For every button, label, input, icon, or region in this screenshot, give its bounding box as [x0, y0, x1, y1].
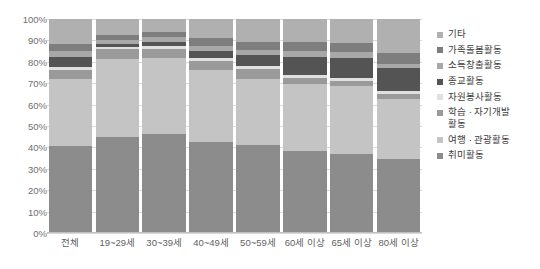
- bar-segment[interactable]: [49, 70, 93, 79]
- bar-segment[interactable]: [236, 145, 280, 233]
- x-axis-label: 80세 이상: [377, 236, 421, 256]
- legend-item[interactable]: 종교활동: [437, 75, 540, 87]
- bar-segment[interactable]: [96, 19, 140, 35]
- bar-column[interactable]: [189, 19, 233, 233]
- x-axis-line: [47, 232, 422, 233]
- legend-label: 가족돌봄활동: [448, 44, 502, 56]
- bar-segment[interactable]: [377, 99, 421, 159]
- x-axis-label: 30~39세: [142, 236, 186, 256]
- bar-segment[interactable]: [142, 134, 186, 234]
- bar-segment[interactable]: [142, 19, 186, 32]
- bar-segment[interactable]: [189, 61, 233, 71]
- bar-column[interactable]: [283, 19, 327, 233]
- x-axis-label: 19~29세: [96, 236, 140, 256]
- legend-swatch-icon: [437, 110, 443, 116]
- bar-segment[interactable]: [377, 19, 421, 53]
- legend-item[interactable]: 여행 · 관광활동: [437, 134, 540, 146]
- bar-segment[interactable]: [49, 57, 93, 68]
- bar-segment[interactable]: [283, 151, 327, 233]
- bar-segment[interactable]: [236, 69, 280, 79]
- legend-label: 소득창출활동: [448, 59, 502, 71]
- legend-label: 취미활동: [448, 149, 484, 161]
- bar-group: [47, 19, 422, 233]
- bar-segment[interactable]: [49, 79, 93, 146]
- legend-label: 자원봉사활동: [448, 91, 502, 103]
- bar-segment[interactable]: [142, 49, 186, 58]
- bar-segment[interactable]: [377, 53, 421, 64]
- legend-swatch-icon: [437, 137, 443, 143]
- legend-label: 기타: [448, 28, 466, 40]
- bar-segment[interactable]: [96, 137, 140, 233]
- bar-segment[interactable]: [189, 142, 233, 233]
- bar-segment[interactable]: [377, 68, 421, 90]
- bar-segment[interactable]: [330, 154, 374, 233]
- x-axis-labels: 전체19~29세30~39세40~49세50~59세60세 이상65세 이상80…: [47, 236, 422, 256]
- legend-item[interactable]: 기타: [437, 28, 540, 40]
- bar-segment[interactable]: [330, 86, 374, 153]
- bar-segment[interactable]: [142, 58, 186, 134]
- legend: 기타가족돌봄활동소득창출활동종교활동자원봉사활동학습 · 자기개발 활동여행 ·…: [437, 28, 540, 165]
- bar-segment[interactable]: [189, 38, 233, 45]
- bar-segment[interactable]: [189, 70, 233, 142]
- bar-segment[interactable]: [236, 42, 280, 51]
- legend-swatch-icon: [437, 94, 443, 100]
- plot-area: [47, 19, 422, 233]
- bar-segment[interactable]: [283, 19, 327, 41]
- legend-item[interactable]: 취미활동: [437, 149, 540, 161]
- legend-item[interactable]: 소득창출활동: [437, 59, 540, 71]
- bar-segment[interactable]: [49, 19, 93, 44]
- bar-column[interactable]: [377, 19, 421, 233]
- bar-column[interactable]: [142, 19, 186, 233]
- bar-segment[interactable]: [189, 19, 233, 38]
- bar-segment[interactable]: [236, 19, 280, 41]
- bar-segment[interactable]: [236, 79, 280, 145]
- x-axis-label: 65세 이상: [330, 236, 374, 256]
- legend-item[interactable]: 자원봉사활동: [437, 91, 540, 103]
- x-axis-label: 40~49세: [189, 236, 233, 256]
- bar-column[interactable]: [96, 19, 140, 233]
- bar-segment[interactable]: [330, 19, 374, 43]
- x-axis-label: 60세 이상: [283, 236, 327, 256]
- legend-swatch-icon: [437, 153, 443, 159]
- legend-swatch-icon: [437, 47, 443, 53]
- x-axis-label: 전체: [49, 236, 93, 256]
- bar-segment[interactable]: [96, 49, 140, 59]
- chart-container: 0%10%20%30%40%50%60%70%80%90%100% 전체19~2…: [0, 0, 540, 269]
- legend-label: 종교활동: [448, 75, 484, 87]
- bar-column[interactable]: [49, 19, 93, 233]
- x-axis-label: 50~59세: [236, 236, 280, 256]
- legend-item[interactable]: 학습 · 자기개발 활동: [437, 106, 540, 129]
- bar-segment[interactable]: [49, 44, 93, 51]
- bar-segment[interactable]: [96, 59, 140, 137]
- bar-segment[interactable]: [283, 42, 327, 52]
- bar-segment[interactable]: [283, 84, 327, 150]
- legend-swatch-icon: [437, 79, 443, 85]
- bar-segment[interactable]: [236, 55, 280, 66]
- bar-segment[interactable]: [330, 43, 374, 53]
- y-axis: 0%10%20%30%40%50%60%70%80%90%100%: [0, 0, 47, 269]
- legend-swatch-icon: [437, 32, 443, 38]
- bar-segment[interactable]: [377, 159, 421, 233]
- bar-segment[interactable]: [330, 58, 374, 78]
- grid-line: [47, 233, 422, 234]
- legend-item[interactable]: 가족돌봄활동: [437, 44, 540, 56]
- bar-segment[interactable]: [49, 146, 93, 233]
- bar-column[interactable]: [330, 19, 374, 233]
- legend-swatch-icon: [437, 63, 443, 69]
- legend-label: 학습 · 자기개발 활동: [448, 106, 510, 129]
- bar-segment[interactable]: [283, 57, 327, 75]
- bar-column[interactable]: [236, 19, 280, 233]
- legend-label: 여행 · 관광활동: [448, 134, 510, 146]
